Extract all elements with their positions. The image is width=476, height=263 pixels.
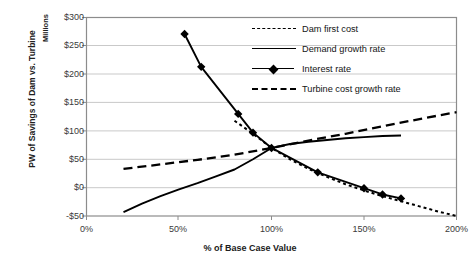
x-axis-title: % of Base Case Value [140,243,360,253]
dashed-line-key [252,83,296,95]
legend-item-label: Dam first cost [302,23,358,35]
legend-item-label: Turbine cost growth rate [302,83,401,95]
y-axis-title: PW of Savings of Dam vs. Turbine [25,4,39,194]
x-tick-label: 50% [155,225,201,234]
legend-item-interest-rate[interactable]: Interest rate [252,59,450,79]
x-tick-label: 200% [434,225,476,234]
legend-item-label: Demand growth rate [302,43,385,55]
x-tick-label: 0% [64,225,110,234]
y-axis-units-label: Millions [40,0,52,57]
diamond-marker-icon [269,64,279,74]
solid-line-key [252,43,296,55]
dotted-line-key [252,23,296,35]
legend-item-demand-growth-rate[interactable]: Demand growth rate [252,39,450,59]
legend-item-turbine-cost-growth-rate[interactable]: Turbine cost growth rate [252,79,450,99]
x-tick-label: 100% [249,225,295,234]
chart-legend: Dam first cost Demand growth rate Intere… [252,19,450,99]
legend-item-dam-first-cost[interactable]: Dam first cost [252,19,450,39]
legend-item-label: Interest rate [302,63,351,75]
diamond-marker-line-key [252,63,296,75]
x-tick-label: 150% [341,225,387,234]
chart-container: $300 $250 $200 $150 $100 $50 $0 -$50 0% … [0,0,476,263]
